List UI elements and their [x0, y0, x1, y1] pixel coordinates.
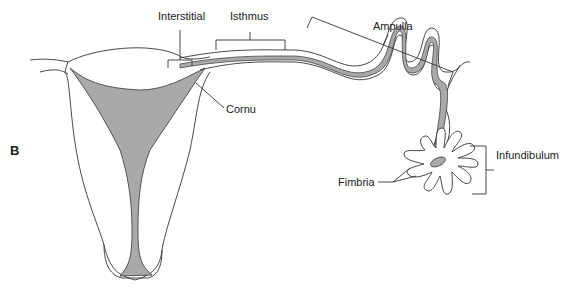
tube-lumen [180, 26, 448, 150]
infundibulum-bracket [470, 146, 494, 194]
tube-outer-lower [200, 35, 444, 150]
label-cornu: Cornu [226, 104, 256, 115]
panel-label: B [10, 144, 19, 157]
label-infundibulum: Infundibulum [496, 150, 559, 161]
label-ampulla: Ampulla [373, 21, 413, 32]
label-isthmus: Isthmus [230, 11, 269, 22]
uterine-cavity [70, 68, 205, 276]
label-interstitial: Interstitial [158, 11, 205, 22]
uterus-tube-diagram [0, 0, 564, 287]
isthmus-bracket [216, 32, 285, 50]
left-ligament-line [40, 70, 68, 74]
label-fimbria: Fimbria [338, 177, 375, 188]
